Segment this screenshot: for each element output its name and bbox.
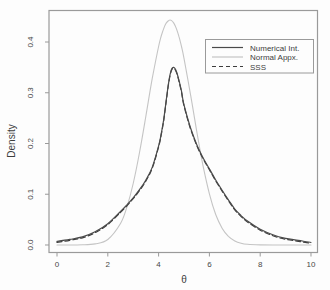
figure-container: 0246810 0.00.10.20.30.4 θ Density Numeri… — [0, 0, 330, 290]
x-tick-label: 10 — [307, 260, 316, 269]
y-tick-label: 0.4 — [26, 36, 35, 48]
x-tick-label: 8 — [258, 260, 263, 269]
curve-numerical-int — [57, 67, 311, 242]
x-tick-label: 0 — [55, 260, 60, 269]
legend-label-numerical-int: Numerical Int. — [250, 44, 299, 53]
y-tick-label: 0.0 — [26, 239, 35, 251]
x-tick-label: 4 — [156, 260, 161, 269]
y-tick-label: 0.3 — [26, 87, 35, 99]
legend-label-sss: SSS — [250, 63, 266, 72]
x-tick-label: 6 — [207, 260, 212, 269]
legend-label-normal-appx: Normal Appx. — [250, 53, 298, 62]
legend: Numerical Int. Normal Appx. SSS — [206, 40, 314, 74]
y-axis-label: Density — [6, 124, 17, 157]
y-axis-ticks: 0.00.10.20.30.4 — [26, 36, 49, 251]
x-axis-ticks: 0246810 — [55, 253, 316, 269]
y-tick-label: 0.2 — [26, 137, 35, 149]
x-axis-label: θ — [181, 274, 187, 285]
x-tick-label: 2 — [106, 260, 111, 269]
curve-sss — [57, 68, 311, 243]
density-plot: 0246810 0.00.10.20.30.4 θ Density Numeri… — [0, 0, 330, 290]
y-tick-label: 0.1 — [26, 188, 35, 200]
